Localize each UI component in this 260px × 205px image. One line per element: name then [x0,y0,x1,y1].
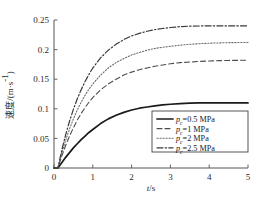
figure-container: 012345 00.050.10.150.20.25 t/s 速度/(m·s-1… [0,0,260,205]
x-axis-title: t/s [147,183,156,193]
y-tick-label: 0.25 [33,15,49,25]
y-tick-label: 0.05 [33,134,49,144]
x-tick-label: 0 [52,172,57,182]
y-tick-label: 0.1 [38,104,49,114]
y-axis-title-cjk: 速度 [4,101,15,119]
x-tick-label: 2 [129,172,134,182]
x-tick-label: 5 [246,172,251,182]
velocity-vs-time-chart: 012345 00.050.10.150.20.25 t/s 速度/(m·s-1… [0,0,260,205]
x-tick-label: 4 [207,172,212,182]
x-tick-label: 3 [168,172,173,182]
legend: pc=0.5 MPapc=1 MPapc=2 MPapc=2.5 MPa [152,111,248,155]
y-tick-label: 0.2 [38,45,49,55]
y-tick-label: 0.15 [33,74,49,84]
x-tick-label: 1 [91,172,96,182]
y-tick-label: 0 [45,163,50,173]
